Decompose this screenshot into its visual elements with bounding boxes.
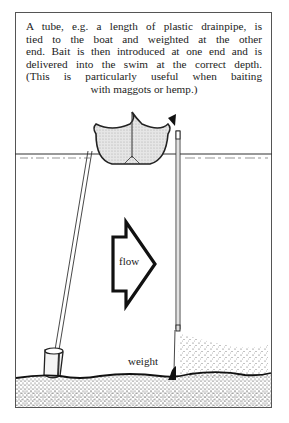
bait-particles xyxy=(179,333,268,378)
flow-label: flow xyxy=(119,255,139,267)
weight-label: weight xyxy=(128,355,158,367)
boat-icon xyxy=(94,112,170,164)
river-bed xyxy=(16,372,271,407)
anchor-weight-icon xyxy=(44,348,63,378)
anchor-rope xyxy=(55,151,92,350)
